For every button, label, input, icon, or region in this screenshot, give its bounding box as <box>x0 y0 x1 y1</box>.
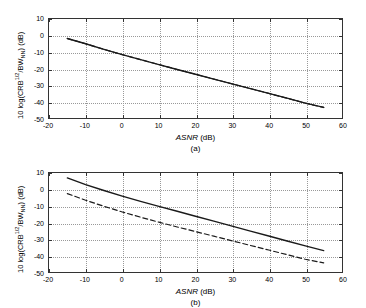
x-tick-mark <box>233 269 234 273</box>
y-tick-mark <box>48 224 52 225</box>
x-axis-title-b-unit: (dB) <box>198 287 215 296</box>
x-tick-label: 50 <box>302 122 310 129</box>
x-tick-mark-top <box>197 18 198 22</box>
x-tick-mark <box>86 115 87 119</box>
x-tick-mark-top <box>123 172 124 176</box>
y-tick-label: -20 <box>22 219 44 226</box>
y-tick-mark-right <box>339 207 343 208</box>
x-tick-mark <box>270 269 271 273</box>
y-tick-label: 10 <box>22 169 44 176</box>
x-tick-mark-top <box>307 18 308 22</box>
x-tick-mark <box>307 115 308 119</box>
x-tick-mark <box>197 115 198 119</box>
y-tick-mark-right <box>339 36 343 37</box>
y-tick-label: -40 <box>22 99 44 106</box>
figure-container: 10 log(CRB1/2/BWNN) (dB) -20-10010203040… <box>0 0 366 308</box>
x-tick-label: 10 <box>155 276 163 283</box>
x-tick-label: 60 <box>339 122 347 129</box>
x-tick-mark-top <box>197 172 198 176</box>
y-tick-label: -30 <box>22 236 44 243</box>
panel-caption-b: (b) <box>48 298 343 307</box>
x-tick-label: 40 <box>265 276 273 283</box>
y-tick-mark-right <box>339 173 343 174</box>
y-tick-label: 0 <box>22 31 44 38</box>
x-tick-mark-top <box>160 172 161 176</box>
y-axis-title-b: 10 log(CRB1/2/BWNN) (dB) <box>14 186 26 273</box>
y-tick-mark-right <box>339 257 343 258</box>
x-tick-label: 50 <box>302 276 310 283</box>
x-tick-label: 30 <box>228 122 236 129</box>
y-axis-title-a: 10 log(CRB1/2/BWNN) (dB) <box>14 32 26 119</box>
x-tick-mark-top <box>86 18 87 22</box>
panel-caption-a: (a) <box>48 144 343 153</box>
y-tick-mark <box>48 86 52 87</box>
x-tick-label: 30 <box>228 276 236 283</box>
y-tick-mark <box>48 36 52 37</box>
y-tick-mark <box>48 70 52 71</box>
x-tick-mark-top <box>123 18 124 22</box>
x-tick-mark-top <box>160 18 161 22</box>
x-tick-mark-top <box>233 172 234 176</box>
curve-solid <box>67 38 323 107</box>
y-tick-mark <box>48 257 52 258</box>
y-tick-label: -50 <box>22 270 44 277</box>
x-tick-label: 0 <box>120 276 124 283</box>
y-tick-mark <box>48 173 52 174</box>
x-tick-label: 40 <box>265 122 273 129</box>
x-tick-mark <box>49 269 50 273</box>
y-tick-mark <box>48 103 52 104</box>
y-tick-mark <box>48 53 52 54</box>
y-tick-mark <box>48 19 52 20</box>
x-axis-title-a: ASNR (dB) <box>48 133 343 142</box>
y-tick-label: -50 <box>22 116 44 123</box>
data-curves-b <box>49 173 342 272</box>
y-tick-mark <box>48 207 52 208</box>
x-tick-mark <box>123 115 124 119</box>
y-tick-label: -10 <box>22 48 44 55</box>
x-tick-label: 20 <box>192 122 200 129</box>
y-tick-mark <box>48 240 52 241</box>
x-tick-label: 10 <box>155 122 163 129</box>
plot-area-a <box>48 18 343 119</box>
y-tick-mark-right <box>339 53 343 54</box>
x-tick-mark-top <box>233 18 234 22</box>
x-axis-title-b-var: ASNR <box>176 287 198 296</box>
x-tick-mark <box>197 269 198 273</box>
x-tick-mark <box>160 115 161 119</box>
y-tick-mark-right <box>339 70 343 71</box>
x-tick-mark-top <box>307 172 308 176</box>
y-tick-mark-right <box>339 190 343 191</box>
y-tick-label: -40 <box>22 253 44 260</box>
panel-a: 10 log(CRB1/2/BWNN) (dB) -20-10010203040… <box>0 0 366 154</box>
x-tick-label: -20 <box>43 276 53 283</box>
panel-b: 10 log(CRB1/2/BWNN) (dB) -20-10010203040… <box>0 154 366 308</box>
y-tick-label: -30 <box>22 82 44 89</box>
x-tick-mark <box>160 269 161 273</box>
x-tick-mark <box>49 115 50 119</box>
x-tick-label: -10 <box>80 276 90 283</box>
y-tick-label: -10 <box>22 202 44 209</box>
y-tick-label: 0 <box>22 185 44 192</box>
x-tick-label: -20 <box>43 122 53 129</box>
y-tick-mark-right <box>339 240 343 241</box>
x-tick-mark-top <box>86 172 87 176</box>
y-tick-mark-right <box>339 86 343 87</box>
x-axis-title-a-unit: (dB) <box>198 133 215 142</box>
y-tick-label: -20 <box>22 65 44 72</box>
x-tick-mark <box>123 269 124 273</box>
x-tick-label: 20 <box>192 276 200 283</box>
x-tick-label: 0 <box>120 122 124 129</box>
x-tick-label: 60 <box>339 276 347 283</box>
curve-dashed <box>67 194 323 263</box>
data-curves-a <box>49 19 342 118</box>
y-tick-label: 10 <box>22 15 44 22</box>
y-tick-mark <box>48 190 52 191</box>
x-tick-mark-top <box>270 18 271 22</box>
x-tick-mark <box>233 115 234 119</box>
x-axis-title-a-var: ASNR <box>176 133 198 142</box>
x-tick-mark <box>86 269 87 273</box>
x-axis-title-b: ASNR (dB) <box>48 287 343 296</box>
y-tick-mark-right <box>339 103 343 104</box>
y-tick-mark-right <box>339 19 343 20</box>
x-tick-mark-top <box>270 172 271 176</box>
